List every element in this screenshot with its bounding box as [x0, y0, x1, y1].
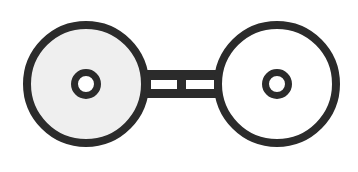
- left-wheel: [27, 25, 145, 143]
- right-wheel: [218, 25, 336, 143]
- connector-slot-left: [151, 80, 177, 89]
- right-hub-ring-icon: [266, 73, 289, 96]
- connector-bar: [140, 70, 224, 98]
- dumbbell-diagram: [0, 0, 358, 172]
- left-hub-ring-icon: [75, 73, 98, 96]
- connector-slot-right: [186, 80, 214, 89]
